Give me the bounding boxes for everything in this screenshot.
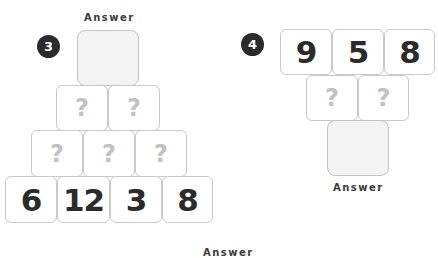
question-mark: ? <box>102 140 116 168</box>
puzzle-3-base-cell: 3 <box>110 176 162 223</box>
puzzle-4-number-badge: 4 <box>241 33 264 56</box>
base-number: 8 <box>177 182 198 218</box>
puzzle-4-answer-label: Answer <box>333 182 384 193</box>
puzzle-4-top-cell: 9 <box>280 29 332 75</box>
puzzle-3-row1-cell[interactable]: ? <box>108 85 160 131</box>
question-mark: ? <box>325 84 339 112</box>
footer-answer-label: Answer <box>203 247 254 258</box>
puzzle-3-base-cell: 12 <box>57 176 110 223</box>
puzzle-3-base-cell: 6 <box>5 176 57 223</box>
question-mark: ? <box>127 94 141 122</box>
question-mark: ? <box>50 140 64 168</box>
puzzle-3-row2-cell[interactable]: ? <box>31 130 83 177</box>
puzzle-3-answer-box[interactable] <box>77 30 139 86</box>
puzzle-3-answer-label: Answer <box>84 12 135 23</box>
base-number: 3 <box>126 182 147 218</box>
puzzle-3-base-cell: 8 <box>162 176 213 223</box>
top-number: 5 <box>348 34 369 70</box>
base-number: 12 <box>63 182 104 218</box>
puzzle-3-row2-cell[interactable]: ? <box>135 130 187 177</box>
top-number: 8 <box>399 34 420 70</box>
puzzle-3-row2-cell[interactable]: ? <box>83 130 135 177</box>
question-mark: ? <box>75 94 89 122</box>
question-mark: ? <box>154 140 168 168</box>
question-mark: ? <box>377 84 391 112</box>
puzzle-3-number-badge: 3 <box>37 35 60 58</box>
puzzle-4-answer-box[interactable] <box>327 120 389 176</box>
base-number: 6 <box>21 182 42 218</box>
top-number: 9 <box>296 34 317 70</box>
puzzle-4-top-cell: 8 <box>384 29 435 75</box>
puzzle-4-top-cell: 5 <box>332 29 384 75</box>
puzzle-4-row2-cell[interactable]: ? <box>306 75 358 121</box>
puzzle-4-row2-cell[interactable]: ? <box>358 75 409 121</box>
puzzle-3-row1-cell[interactable]: ? <box>56 85 108 131</box>
